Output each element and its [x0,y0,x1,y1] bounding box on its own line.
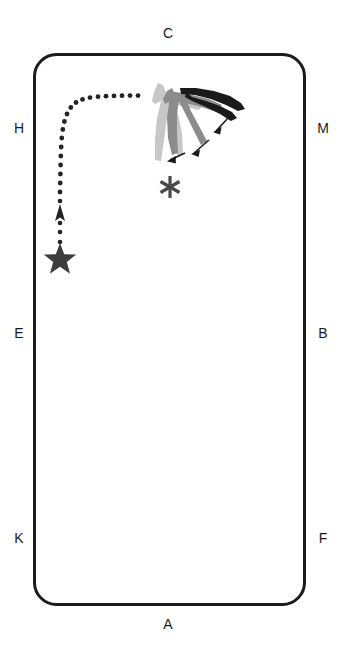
arena-marker-k: K [8,531,30,545]
arena-marker-m: M [312,121,334,135]
arena-marker-e: E [8,326,30,340]
arena-marker-a: A [157,617,179,631]
arena-marker-h: H [8,121,30,135]
arena-marker-f: F [312,531,334,545]
arena-marker-c: C [157,26,179,40]
arena-canvas [0,0,338,651]
dressage-arena-diagram: C H M E B K F A [0,0,338,651]
arena-marker-b: B [312,326,334,340]
